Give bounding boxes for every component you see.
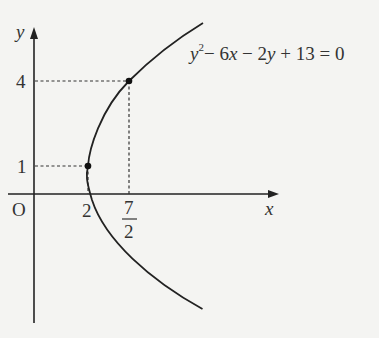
y-axis-label: y	[14, 21, 25, 42]
parabola-diagram: y x O 4 1 2 7 2 y2− 6x − 2y + 13 = 0	[0, 0, 379, 338]
point-7-2-4	[126, 78, 133, 85]
tick-x-2: 2	[82, 200, 92, 221]
equation-label: y2− 6x − 2y + 13 = 0	[188, 41, 344, 64]
point-vertex	[85, 163, 92, 170]
tick-x-frac-den: 2	[124, 221, 134, 242]
tick-y-1: 1	[17, 156, 27, 177]
parabola-curve	[87, 23, 203, 309]
eq-term-6: − 6	[204, 43, 229, 64]
eq-y2: y	[265, 43, 276, 64]
eq-y: y	[188, 43, 199, 64]
tick-x-frac-num: 7	[124, 197, 134, 218]
x-axis-label: x	[264, 198, 274, 219]
tick-y-4: 4	[16, 71, 26, 92]
origin-label: O	[12, 199, 26, 220]
axes	[8, 27, 279, 323]
eq-const: + 13 = 0	[276, 43, 345, 64]
x-axis-arrow-icon	[268, 190, 279, 198]
y-axis-arrow-icon	[30, 27, 38, 39]
eq-term-2: − 2	[237, 43, 267, 64]
